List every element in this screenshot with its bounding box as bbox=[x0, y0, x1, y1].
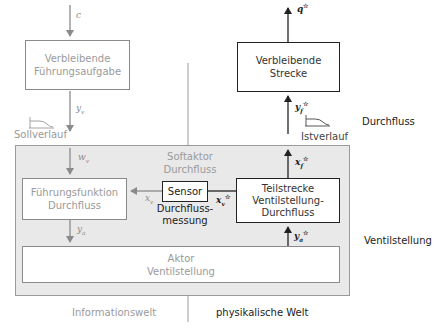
valve-flow-plant-box: Teilstrecke Ventilstellung- Durchfluss bbox=[236, 178, 340, 223]
var-y-a: ya bbox=[77, 224, 86, 236]
sensor-caption: Durchfluss- messung bbox=[152, 203, 218, 227]
actor-box: Aktor Ventilstellung bbox=[22, 246, 340, 283]
box-line: Verbleibende bbox=[45, 52, 111, 65]
box-line: Ventilstellung bbox=[147, 265, 215, 278]
var-y-f-star: yf☆ bbox=[295, 100, 308, 114]
var-y-a-star: ya☆ bbox=[294, 229, 308, 243]
var-y-v: yv bbox=[76, 103, 84, 115]
var-x-v-star: xv☆ bbox=[216, 193, 230, 207]
valve-side-label: Ventilstellung bbox=[364, 235, 432, 246]
sensor-box: Sensor bbox=[162, 181, 208, 202]
physical-world-label: physikalische Welt bbox=[216, 307, 308, 318]
remaining-plant-box: Verbleibende Strecke bbox=[237, 42, 340, 92]
box-line: Strecke bbox=[270, 67, 307, 80]
softactor-title: Softaktor Durchfluss bbox=[150, 150, 230, 176]
box-line: Führungsfunktion bbox=[31, 186, 118, 199]
actual-curve-icon bbox=[305, 115, 330, 126]
var-q-star: q☆ bbox=[297, 2, 308, 14]
box-line: Verbleibende bbox=[256, 54, 322, 67]
remaining-guidance-task-box: Verbleibende Führungsaufgabe bbox=[25, 40, 130, 90]
actual-label: Istverlauf bbox=[301, 131, 348, 142]
var-c: c bbox=[76, 10, 81, 20]
setpoint-label: Sollverlauf bbox=[14, 129, 67, 140]
setpoint-curve-icon bbox=[29, 117, 54, 128]
box-line: Teilstrecke bbox=[262, 183, 314, 195]
var-w-v: wv bbox=[78, 152, 89, 164]
box-line: Aktor bbox=[168, 252, 195, 265]
box-line: Führungsaufgabe bbox=[34, 65, 121, 78]
box-line: Durchfluss bbox=[48, 199, 101, 212]
flow-side-label: Durchfluss bbox=[362, 116, 415, 127]
information-world-label: Informationswelt bbox=[72, 307, 156, 318]
box-line: Durchfluss bbox=[262, 207, 315, 219]
var-x-f-star: xf☆ bbox=[295, 155, 308, 169]
sensor-label: Sensor bbox=[168, 185, 202, 198]
guidance-function-box: Führungsfunktion Durchfluss bbox=[22, 178, 127, 220]
box-line: Ventilstellung- bbox=[252, 195, 324, 207]
